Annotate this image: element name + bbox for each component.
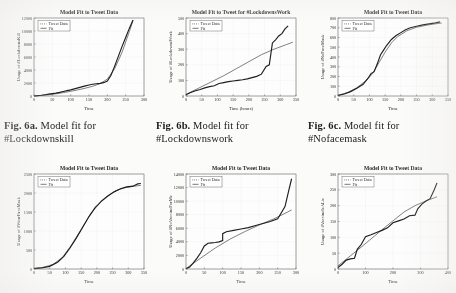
chart-cell-novaccineforme: 0501001502002503000200040006000800010000… — [152, 158, 304, 293]
chart-legend: Tweet DataFit — [342, 177, 374, 188]
figure-row-bottom: 0501001502002503003500500100015002000250… — [0, 158, 456, 293]
x-tick-label: 0 — [337, 97, 339, 102]
chart-legend: Tweet DataFit — [38, 21, 70, 32]
y-tick-label: 14000 — [174, 172, 184, 177]
y-tick-label: 0 — [334, 94, 336, 99]
x-tick-label: 50 — [352, 97, 356, 102]
caption-label-6a: Fig. 6a. — [4, 120, 38, 131]
caption-text-6b: Model fit for — [193, 120, 249, 131]
x-tick-label: 150 — [238, 270, 244, 275]
plot-svg-vaccineisalie: 0100200300400050100150200250300Model Fit… — [304, 158, 456, 293]
plot-svg-nofacemask: 0501001502002503003500100200300400500600… — [304, 2, 456, 120]
y-tick-label: 12000 — [174, 185, 184, 190]
y-tick-label: 100 — [178, 78, 184, 83]
y-tick-label: 300 — [330, 64, 336, 69]
y-axis-label: Usage of #VaccineIsALie — [320, 198, 325, 245]
y-tick-label: 500 — [26, 248, 32, 253]
x-axis-label: Time (hours) — [229, 106, 253, 111]
x-axis-label: Time — [84, 106, 94, 111]
y-tick-label: 1500 — [24, 210, 32, 215]
y-tick-label: 800 — [330, 16, 336, 21]
y-tick-label: 200 — [330, 203, 336, 208]
chart-legend: Tweet DataFit — [342, 21, 374, 32]
chart-title: Model Fit to Tweet Data — [364, 9, 422, 15]
x-tick-label: 0 — [185, 270, 187, 275]
caption-hashtag-6b: #Lockdownswork — [156, 132, 304, 145]
x-tick-label: 50 — [202, 270, 206, 275]
x-tick-label: 300 — [429, 97, 435, 102]
y-axis-label: Usage of #LockdownsKill — [16, 32, 21, 81]
chart-legend: Tweet DataFit — [190, 21, 222, 32]
caption-fig-6b: Fig. 6b. Model fit for #Lockdownswork — [152, 119, 304, 157]
x-tick-label: 100 — [214, 97, 220, 102]
x-tick-label: 50 — [50, 97, 54, 102]
caption-hashtag-6c: #Nofacemask — [308, 132, 456, 145]
y-tick-label: 2000 — [176, 253, 184, 258]
caption-text-6c: Model fit for — [344, 120, 400, 131]
x-tick-label: 200 — [94, 270, 100, 275]
x-tick-label: 50 — [200, 97, 204, 102]
y-tick-label: 0 — [30, 94, 32, 99]
plot-wearfacemask: 0501001502002503003500500100015002000250… — [0, 158, 152, 293]
x-tick-label: 250 — [261, 97, 267, 102]
figure-captions: Fig. 6a. Model fit for #Lockdownskill Fi… — [0, 119, 456, 157]
x-tick-label: 0 — [337, 270, 339, 275]
x-tick-label: 100 — [62, 270, 68, 275]
chart-title: Model Fit to Tweet Data — [60, 9, 118, 15]
y-tick-label: 50 — [332, 251, 336, 256]
x-tick-label: 350 — [445, 97, 451, 102]
x-tick-label: 350 — [141, 270, 147, 275]
y-tick-label: 250 — [330, 187, 336, 192]
x-tick-label: 200 — [246, 97, 252, 102]
x-tick-label: 250 — [123, 97, 129, 102]
y-tick-label: 300 — [178, 47, 184, 52]
y-tick-label: 600 — [330, 35, 336, 40]
chart-cell-lockdownswork: 0501001502002503003500100200300400500Mod… — [152, 2, 304, 120]
caption-fig-6a: Fig. 6a. Model fit for #Lockdownskill — [0, 119, 152, 157]
y-tick-label: 300 — [330, 172, 336, 177]
x-tick-label: 100 — [366, 97, 372, 102]
y-tick-label: 4000 — [24, 68, 32, 73]
caption-fig-6c: Fig. 6c. Model fit for #Nofacemask — [304, 119, 456, 157]
y-tick-label: 100 — [330, 235, 336, 240]
chart-lockdownswork: 0501001502002503003500100200300400500Mod… — [168, 9, 299, 111]
plot-svg-wearfacemask: 0501001502002503003500500100015002000250… — [0, 158, 152, 293]
y-tick-label: 8000 — [176, 212, 184, 217]
x-tick-label: 250 — [109, 270, 115, 275]
x-tick-label: 100 — [220, 270, 226, 275]
x-tick-label: 0 — [33, 97, 35, 102]
chart-novaccineforme: 0501001502002503000200040006000800010000… — [168, 165, 299, 284]
plot-lockdownswork: 0501001502002503003500100200300400500Mod… — [152, 2, 304, 120]
figure-row-top: 0501001502002503000200040006000800010000… — [0, 2, 456, 120]
chart-cell-nofacemask: 0501001502002503003500100200300400500600… — [304, 2, 456, 120]
x-tick-label: 300 — [293, 270, 299, 275]
y-tick-label: 12000 — [22, 16, 32, 21]
x-tick-label: 300 — [417, 270, 423, 275]
caption-label-6b: Fig. 6b. — [156, 120, 190, 131]
x-axis-label: Time — [84, 279, 94, 284]
y-tick-label: 0 — [182, 94, 184, 99]
y-tick-label: 1000 — [24, 229, 32, 234]
x-tick-label: 150 — [86, 97, 92, 102]
caption-label-6c: Fig. 6c. — [308, 120, 341, 131]
y-axis-label: Usage of #LockdownsWork — [168, 31, 173, 83]
y-tick-label: 400 — [178, 31, 184, 36]
chart-title: Model Fit to Tweet for #LockdownsWork — [192, 9, 292, 15]
y-tick-label: 500 — [330, 45, 336, 50]
x-tick-label: 300 — [141, 97, 147, 102]
plot-lockdownskill: 0501001502002503000200040006000800010000… — [0, 2, 152, 120]
plot-vaccineisalie: 0100200300400050100150200250300Model Fit… — [304, 158, 456, 293]
y-tick-label: 10000 — [174, 199, 184, 204]
x-tick-label: 200 — [390, 270, 396, 275]
x-axis-label: Time — [388, 279, 398, 284]
plot-nofacemask: 0501001502002503003500100200300400500600… — [304, 2, 456, 120]
chart-title: Model Fit to Tweet Data — [60, 165, 118, 171]
plot-novaccineforme: 0501001502002503000200040006000800010000… — [152, 158, 304, 293]
y-tick-label: 8000 — [24, 42, 32, 47]
plot-svg-lockdownswork: 0501001502002503003500100200300400500Mod… — [152, 2, 304, 120]
chart-wearfacemask: 0501001502002503003500500100015002000250… — [16, 165, 147, 284]
chart-cell-lockdownskill: 0501001502002503000200040006000800010000… — [0, 2, 152, 120]
plot-svg-lockdownskill: 0501001502002503000200040006000800010000… — [0, 2, 152, 120]
y-tick-label: 0 — [334, 267, 336, 272]
y-tick-label: 4000 — [176, 239, 184, 244]
